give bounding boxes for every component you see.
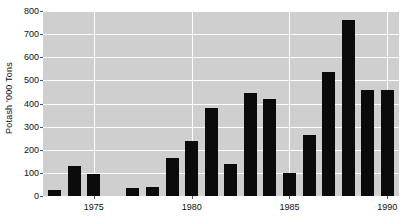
x-axis-tick-marks bbox=[43, 196, 399, 200]
x-tick-mark-1980 bbox=[192, 196, 193, 199]
y-tick-label-100: 100 bbox=[5, 169, 39, 178]
bar-1974 bbox=[68, 166, 81, 196]
gridline-x-1975 bbox=[94, 11, 95, 196]
bar-1986 bbox=[303, 135, 316, 196]
bar-1975 bbox=[87, 174, 100, 196]
y-tick-label-800: 800 bbox=[5, 7, 39, 16]
bar-1989 bbox=[361, 90, 374, 196]
bar-1988 bbox=[342, 20, 355, 196]
bar-1985 bbox=[283, 173, 296, 196]
y-tick-label-500: 500 bbox=[5, 76, 39, 85]
bar-1979 bbox=[166, 158, 179, 196]
gridline-y-800 bbox=[43, 11, 399, 12]
x-tick-label-1975: 1975 bbox=[71, 201, 117, 213]
bar-1977 bbox=[126, 188, 139, 196]
x-tick-label-1990: 1990 bbox=[364, 201, 410, 213]
bar-1978 bbox=[146, 187, 159, 196]
bar-1984 bbox=[263, 99, 276, 196]
bar-1981 bbox=[205, 108, 218, 196]
x-tick-mark-1990 bbox=[387, 196, 388, 199]
bar-1983 bbox=[244, 93, 257, 196]
y-tick-label-0: 0 bbox=[5, 192, 39, 201]
bar-1982 bbox=[224, 164, 237, 196]
gridline-x-1985 bbox=[289, 11, 290, 196]
x-tick-label-1980: 1980 bbox=[169, 201, 215, 213]
x-axis-tick-labels: 1975198019851990 bbox=[0, 201, 411, 215]
x-tick-label-1985: 1985 bbox=[266, 201, 312, 213]
bar-1980 bbox=[185, 141, 198, 197]
y-tick-label-200: 200 bbox=[5, 146, 39, 155]
y-tick-label-700: 700 bbox=[5, 30, 39, 39]
plot-area bbox=[43, 11, 399, 196]
x-tick-mark-1985 bbox=[289, 196, 290, 199]
potash-bar-chart: Potash '000 Tons 01002003004005006007008… bbox=[0, 0, 411, 224]
y-tick-label-400: 400 bbox=[5, 100, 39, 109]
y-tick-label-600: 600 bbox=[5, 53, 39, 62]
bar-1987 bbox=[322, 72, 335, 196]
y-axis-tick-labels: 0100200300400500600700800 bbox=[0, 11, 39, 196]
y-tick-label-300: 300 bbox=[5, 123, 39, 132]
bar-1990 bbox=[381, 90, 394, 196]
x-tick-mark-1975 bbox=[94, 196, 95, 199]
